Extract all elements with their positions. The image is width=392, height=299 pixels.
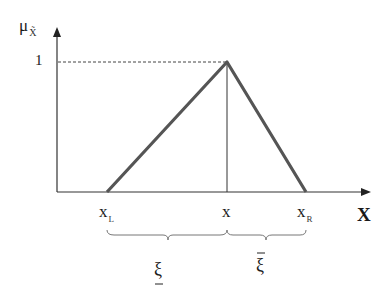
y-axis-arrow-icon: [53, 27, 61, 37]
x-left-label: xL: [99, 203, 114, 220]
x-right-letter: x: [297, 202, 306, 221]
x-axis-label: X: [357, 205, 371, 224]
x-right-subscript: R: [307, 214, 313, 224]
x-right-label: xR: [297, 203, 313, 220]
mu-subscript: X̃: [29, 27, 36, 38]
mu-symbol: μ: [19, 16, 28, 35]
y-axis-label: μX̃: [19, 17, 36, 34]
right-spread-symbol: ξ: [256, 256, 264, 274]
left-spread-brace: [107, 230, 227, 240]
x-left-letter: x: [99, 202, 108, 221]
x-peak-letter: x: [222, 202, 231, 221]
right-spread-brace: [227, 230, 306, 240]
x-left-subscript: L: [109, 214, 115, 224]
membership-function-triangle: [107, 62, 306, 192]
y-tick-label-one: 1: [35, 53, 43, 68]
diagram-canvas: [0, 0, 392, 299]
x-peak-label: x: [222, 203, 231, 220]
x-axis-arrow-icon: [361, 188, 371, 196]
left-spread-symbol: ξ: [154, 260, 162, 278]
